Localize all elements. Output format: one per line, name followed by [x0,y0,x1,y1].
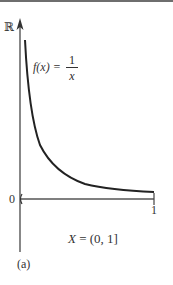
fraction-denominator: x [66,69,78,84]
domain-variable: X [68,231,76,246]
fraction-bar [66,67,78,68]
figure-caption: (a) [17,258,30,270]
function-fraction: 1 x [66,53,78,84]
y-axis-label: ℝ [4,21,14,33]
origin-label: 0 [9,193,15,205]
domain-interval: = (0, 1] [76,231,118,246]
fraction-numerator: 1 [66,53,78,66]
x-end-label: 1 [151,204,157,216]
domain-label: X = (0, 1] [68,232,118,245]
function-label: f(x) = [33,61,61,73]
